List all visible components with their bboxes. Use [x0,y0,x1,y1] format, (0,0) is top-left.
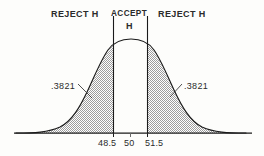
region-label-accept: ACCEPT [111,9,147,18]
reject-right-hypothesis: H [199,9,206,19]
axis-tick-label-lower: 48.5 [98,138,116,148]
region-label-reject-left: REJECT H [51,9,99,19]
reject-right-word: REJECT [158,9,196,19]
region-label-reject-right: REJECT H [158,9,206,19]
normal-distribution-figure: REJECT H ACCEPT H REJECT H .3821 .3821 4… [0,0,264,156]
area-label-left: .3821 [51,81,75,91]
axis-tick-label-center: 50 [124,138,134,148]
region-label-accept-hypothesis: H [126,21,133,31]
area-label-right: .3821 [184,81,208,91]
axis-tick-label-upper: 51.5 [145,138,163,148]
